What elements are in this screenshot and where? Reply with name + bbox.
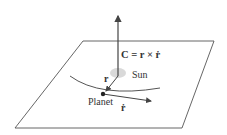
orbital-plane xyxy=(15,41,214,128)
r-label: r xyxy=(104,73,109,84)
equation-label: C = r × ṙ xyxy=(121,49,161,60)
planet-label: Planet xyxy=(88,96,113,107)
sun-label: Sun xyxy=(132,69,148,80)
rdot-label: ṙ xyxy=(121,102,126,113)
angular-momentum-diagram: C = r × ṙ Sun r Planet ṙ xyxy=(0,0,227,135)
